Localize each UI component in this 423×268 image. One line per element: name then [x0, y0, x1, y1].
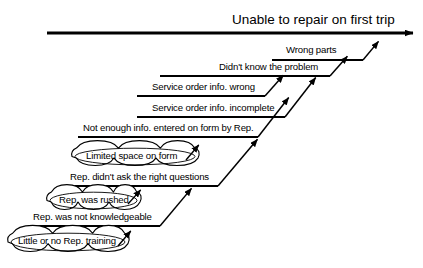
branch-label-not-enough-info-entered-on-form: Not enough info. entered on form by Rep.	[83, 123, 254, 133]
branch-label-service-order-info-incomplete: Service order info. incomplete	[152, 103, 274, 113]
diagram-title: Unable to repair on first trip	[232, 13, 395, 27]
branch-arrow-rep-was-not-knowledgeable	[160, 188, 192, 226]
branch-label-service-order-info-wrong: Service order info. wrong	[152, 82, 255, 92]
branch-label-rep-was-not-knowledgeable: Rep. was not knowledgeable	[33, 212, 152, 222]
diagram-canvas	[0, 0, 423, 268]
cause-and-effect-diagram: Unable to repair on first trip Wrong par…	[0, 0, 423, 268]
branch-arrow-service-order-info-incomplete	[285, 78, 316, 117]
cloud-label-rep-was-rushed: Rep. was rushed	[59, 195, 129, 205]
branch-label-wrong-parts: Wrong parts	[286, 45, 336, 55]
branch-label-didnt-know-the-problem: Didn't know the problem	[219, 62, 318, 72]
cloud-label-limited-space-on-form: Limited space on form	[86, 151, 177, 161]
branch-arrow-rep-didnt-ask-right-questions	[218, 139, 257, 186]
branch-label-rep-didnt-ask-right-questions: Rep. didn't ask the right questions	[70, 172, 209, 182]
cloud-label-little-or-no-rep-training: Little or no Rep. training	[18, 236, 116, 246]
branch-arrow-service-order-info-wrong	[265, 75, 283, 96]
branch-arrow-wrong-parts	[363, 41, 379, 60]
